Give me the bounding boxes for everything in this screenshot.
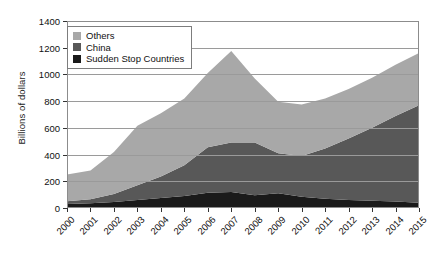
- legend-swatch-icon: [73, 55, 81, 63]
- y-axis-tick-label: 800: [20, 96, 60, 107]
- y-axis-tick-labels: 0200400600800100012001400: [18, 0, 60, 215]
- x-axis-tick: [114, 208, 115, 212]
- x-axis-tick-label: 2006: [190, 214, 218, 242]
- x-axis-tick: [419, 208, 420, 212]
- y-axis-tick-label: 600: [20, 122, 60, 133]
- x-axis-tick: [208, 208, 209, 212]
- x-axis-tick-label: 2002: [96, 214, 124, 242]
- y-axis-tick-label: 1000: [20, 69, 60, 80]
- gridline: [67, 74, 419, 75]
- stacked-area-chart: Billions of dollars 02004006008001000120…: [0, 0, 434, 256]
- x-axis-tick-label: 2010: [284, 214, 312, 242]
- y-axis-tick-label: 1200: [20, 42, 60, 53]
- y-axis-ticks: [60, 21, 67, 208]
- x-axis-tick: [67, 208, 68, 212]
- x-axis-tick-label: 2015: [401, 214, 429, 242]
- legend-item: China: [73, 42, 184, 54]
- legend-item-label: Others: [86, 30, 115, 42]
- x-axis-tick-label: 2009: [260, 214, 288, 242]
- x-axis-tick: [349, 208, 350, 212]
- y-axis-tick-label: 0: [20, 203, 60, 214]
- gridline: [67, 155, 419, 156]
- x-axis-tick: [325, 208, 326, 212]
- x-axis-tick: [231, 208, 232, 212]
- y-axis-title-container: Billions of dollars: [2, 0, 18, 215]
- legend-swatch-icon: [73, 32, 81, 40]
- legend: OthersChinaSudden Stop Countries: [67, 26, 192, 69]
- gridline: [67, 101, 419, 102]
- y-axis-tick-label: 200: [20, 176, 60, 187]
- legend-item: Sudden Stop Countries: [73, 53, 184, 65]
- x-axis-tick-labels: 2000200120022003200420052006200720082009…: [0, 214, 434, 256]
- x-axis-tick: [302, 208, 303, 212]
- legend-item-label: China: [86, 42, 111, 54]
- x-axis-tick-label: 2005: [167, 214, 195, 242]
- gridline: [67, 128, 419, 129]
- x-axis-ticks: [67, 208, 420, 213]
- x-axis-tick: [278, 208, 279, 212]
- gridline: [67, 181, 419, 182]
- legend-swatch-icon: [73, 43, 81, 51]
- y-axis-tick-label: 1400: [20, 16, 60, 27]
- x-axis-tick-label: 2008: [237, 214, 265, 242]
- x-axis-tick-label: 2011: [307, 214, 335, 242]
- x-axis-tick-label: 2007: [213, 214, 241, 242]
- x-axis-tick: [372, 208, 373, 212]
- x-axis-tick-label: 2000: [49, 214, 77, 242]
- legend-item-label: Sudden Stop Countries: [86, 53, 184, 65]
- x-axis-tick: [137, 208, 138, 212]
- y-axis-tick-label: 400: [20, 149, 60, 160]
- x-axis-tick-label: 2003: [120, 214, 148, 242]
- x-axis-tick-label: 2013: [354, 214, 382, 242]
- x-axis-tick-label: 2004: [143, 214, 171, 242]
- x-axis-tick: [255, 208, 256, 212]
- x-axis-tick: [90, 208, 91, 212]
- x-axis-tick: [396, 208, 397, 212]
- x-axis-tick: [161, 208, 162, 212]
- x-axis-tick-label: 2001: [73, 214, 101, 242]
- x-axis-tick-label: 2014: [378, 214, 406, 242]
- legend-item: Others: [73, 30, 184, 42]
- x-axis-tick: [184, 208, 185, 212]
- x-axis-tick-label: 2012: [331, 214, 359, 242]
